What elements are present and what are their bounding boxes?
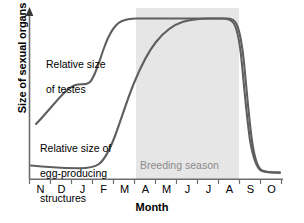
- x-tick-label: J: [177, 182, 198, 196]
- x-tick-label: J: [198, 182, 219, 196]
- series-label-testes-line2: of testes: [46, 83, 86, 95]
- x-tick-label: O: [261, 182, 282, 196]
- x-tick-label: M: [114, 182, 135, 196]
- x-tick-label: A: [219, 182, 240, 196]
- x-tick-label: N: [30, 182, 51, 196]
- breeding-season-label: Breeding season: [140, 159, 219, 171]
- x-tick-label: F: [93, 182, 114, 196]
- x-tick-label: M: [156, 182, 177, 196]
- chart-figure: Breeding season Relative size of testes …: [0, 0, 304, 223]
- series-label-testes-line1: Relative size: [46, 58, 106, 70]
- series-label-testes: Relative size of testes: [46, 45, 106, 95]
- x-tick-label: D: [51, 182, 72, 196]
- x-tick-label: A: [135, 182, 156, 196]
- series-label-egg-line2: egg-producing: [40, 167, 107, 179]
- series-label-egg-line1: Relative size of: [40, 142, 111, 154]
- x-tick-label: J: [72, 182, 93, 196]
- y-axis-title: Size of sexual organs: [16, 0, 28, 138]
- x-axis-tick-labels: NDJFMAMJJASO: [30, 182, 282, 198]
- breeding-season-band: [136, 8, 239, 179]
- x-tick-label: S: [240, 182, 261, 196]
- x-axis-title: Month: [0, 201, 304, 213]
